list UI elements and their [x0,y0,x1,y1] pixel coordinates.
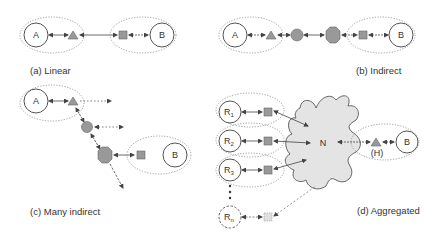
hidden-label: (H) [371,148,384,158]
square-node [119,31,127,39]
network-label: N [320,138,327,148]
ellipsis-dot [229,191,231,193]
square-node [359,31,367,39]
square-node-3 [264,166,272,174]
square-node-2 [264,137,272,145]
square-node-n [264,213,272,221]
node-a-label: A [33,96,39,106]
node-b-label: B [172,150,178,160]
panel-c-many-indirect: A B (c) Many indirect [20,85,191,217]
diagram-canvas: A B (a) Linear A B (b) Indirect A [0,0,444,244]
caption-a: (a) Linear [30,65,71,76]
triangle-node [68,97,78,105]
triangle-node [266,31,276,39]
node-b-label: B [159,30,165,40]
ellipsis-dot [229,185,231,187]
panel-b-indirect: A B (b) Indirect [219,17,415,76]
node-b-label: B [404,137,410,147]
relay-node-large [98,147,112,163]
hidden-triangle-node [371,138,381,146]
node-a-label: A [232,30,238,40]
panel-a-linear: A B (a) Linear [20,17,176,76]
ellipsis-dot [229,197,231,199]
relay-node-small [82,122,93,133]
relay-node-large [326,27,340,43]
triangle-node [68,31,78,39]
square-node-1 [264,108,272,116]
square-node [137,151,145,159]
panel-d-aggregated: N R1 R2 R3 Rn (H) B ( [216,93,420,228]
caption-c: (c) Many indirect [30,206,101,217]
caption-b: (b) Indirect [356,65,402,76]
caption-d: (d) Aggregated [357,205,420,216]
node-a-label: A [33,30,39,40]
relay-node-small [291,29,303,41]
node-b-label: B [398,30,404,40]
